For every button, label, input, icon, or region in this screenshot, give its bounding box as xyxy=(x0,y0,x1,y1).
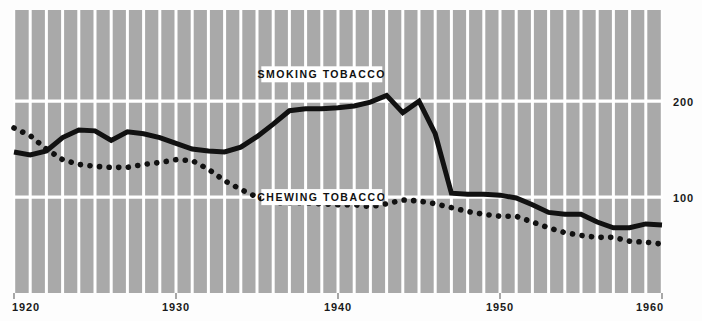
y-tick-label-100: 100 xyxy=(673,192,694,204)
series-label-smoking-tobacco: SMOKING TOBACCO xyxy=(258,66,386,82)
series-label-text-smoking-tobacco: SMOKING TOBACCO xyxy=(258,68,386,80)
x-tick-label-1920: 1920 xyxy=(12,301,40,313)
y-tick-label-200: 200 xyxy=(673,96,694,108)
x-tick-label-1930: 1930 xyxy=(162,301,190,313)
x-tick-label-1950: 1950 xyxy=(486,301,514,313)
series-label-chewing-tobacco: CHEWING TOBACCO xyxy=(257,189,386,205)
vertical-gridlines xyxy=(14,10,662,293)
x-tick-label-1960: 1960 xyxy=(636,301,664,313)
x-tick-label-1940: 1940 xyxy=(324,301,352,313)
chart-container: SMOKING TOBACCOCHEWING TOBACCO 100200 19… xyxy=(0,0,702,321)
series-label-text-chewing-tobacco: CHEWING TOBACCO xyxy=(257,191,386,203)
tobacco-consumption-line-chart: SMOKING TOBACCOCHEWING TOBACCO 100200 19… xyxy=(0,0,702,321)
